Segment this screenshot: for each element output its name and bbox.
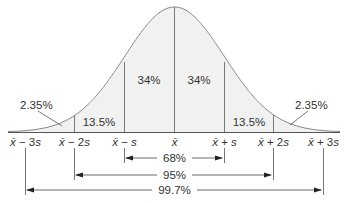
arrowhead-997-left	[26, 188, 34, 193]
axis-tick-label: x̄ − 3s	[9, 136, 41, 148]
axis-tick-labels: x̄ − 3sx̄ − 2sx̄ − sx̄x̄ + sx̄ + 2sx̄ + …	[9, 136, 339, 148]
region-label-left-tail: 2.35%	[20, 99, 53, 111]
range-label-68: 68%	[163, 152, 186, 164]
arrowhead-997-right	[314, 188, 322, 193]
axis-tick-label: x̄ + 3s	[307, 136, 339, 148]
arrowhead-68-right	[215, 156, 223, 161]
region-label-right-1s: 34%	[187, 74, 210, 86]
arrowhead-95-right	[264, 173, 272, 178]
axis-tick-label: x̄ + s	[211, 136, 237, 148]
axis-tick-label: x̄ − s	[111, 136, 137, 148]
range-label-95: 95%	[163, 169, 186, 181]
axis-tick-label: x̄ + 2s	[257, 136, 289, 148]
arrowhead-68-left	[125, 156, 133, 161]
normal-distribution-diagram: 34% 34% 13.5% 13.5% 2.35% 2.35% x̄ − 3sx…	[0, 0, 349, 203]
region-label-right-2s: 13.5%	[233, 116, 266, 128]
region-label-right-tail: 2.35%	[295, 99, 328, 111]
range-label-997: 99.7%	[158, 184, 191, 196]
region-label-left-1s: 34%	[137, 74, 160, 86]
region-label-left-2s: 13.5%	[83, 116, 116, 128]
axis-tick-label: x̄ − 2s	[58, 136, 90, 148]
leader-left-tail	[38, 111, 62, 126]
leader-right-tail	[290, 111, 308, 125]
arrowhead-95-left	[75, 173, 83, 178]
axis-tick-label: x̄	[171, 136, 179, 148]
